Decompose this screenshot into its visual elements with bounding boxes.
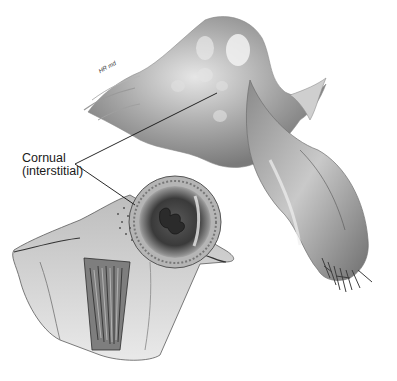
leader-line-lower xyxy=(75,164,135,205)
label-line-2: (interstitial) xyxy=(22,165,83,178)
cornual-label: Cornual (interstitial) xyxy=(22,152,83,178)
medical-illustration xyxy=(0,0,397,381)
